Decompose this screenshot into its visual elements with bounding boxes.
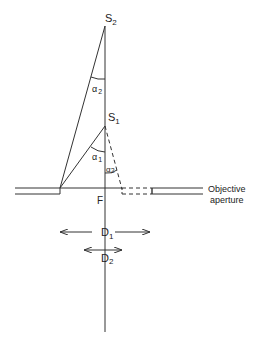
d2-label: D2 [101,252,114,266]
angle-arc-alpha2-upper [91,77,105,79]
aperture-label-line1: Objective [208,184,246,194]
ray-s2 [60,26,105,188]
s1-label: S1 [108,111,120,126]
aperture-label-line2: aperture [210,195,244,205]
ray-s1-dashed [105,126,122,189]
objective-aperture-diagram: S2 S1 α2 α1 α2 F D1 D2 Objective apertur… [0,0,257,345]
alpha2-lower-label: α2 [106,165,115,174]
focus-label: F [97,195,103,206]
alpha1-label: α1 [92,152,102,163]
d1-label: D1 [101,226,114,241]
alpha2-upper-label: α2 [92,84,102,95]
s2-label: S2 [105,12,117,27]
